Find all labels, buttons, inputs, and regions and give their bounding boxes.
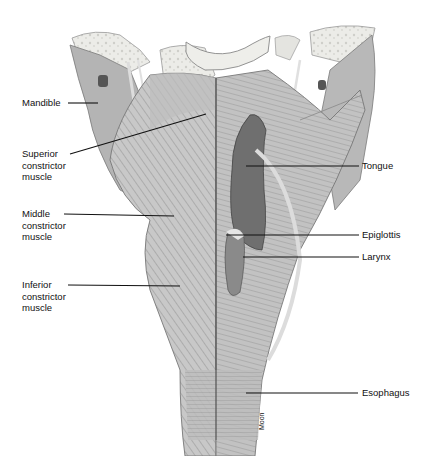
label-epiglottis: Epiglottis [362,229,401,241]
label-inferior-constrictor: Inferior constrictor muscle [22,279,66,314]
label-esophagus: Esophagus [362,387,410,399]
label-larynx: Larynx [362,251,391,263]
label-middle-constrictor: Middle constrictor muscle [22,208,66,243]
label-tongue: Tongue [362,160,393,172]
artist-credit: Moon [258,412,265,430]
label-superior-constrictor: Superior constrictor muscle [22,148,66,183]
anatomy-figure: Mandible Superior constrictor muscle Mid… [0,0,438,456]
label-mandible: Mandible [22,97,61,109]
esophagus-tube [185,370,262,440]
